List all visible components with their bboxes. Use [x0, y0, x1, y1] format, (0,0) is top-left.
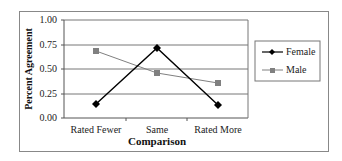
series-female [92, 44, 222, 109]
x-tick-label: Same [146, 124, 169, 135]
x-tick-label: Rated More [194, 124, 242, 135]
line-chart: 1.00 0.75 0.50 0.25 0.00 Percent Agreeme… [0, 0, 342, 161]
y-axis-label: Percent Agreement [23, 28, 34, 110]
y-tick-label: 0.75 [40, 39, 58, 50]
y-tick-label: 1.00 [40, 14, 58, 25]
y-tick-label: 0.50 [40, 63, 58, 74]
legend-label-female: Female [286, 46, 316, 57]
legend-label-male: Male [286, 64, 307, 75]
x-tick-label: Rated Fewer [71, 124, 122, 135]
x-axis-label: Comparison [128, 135, 186, 147]
legend: Female Male [255, 41, 320, 81]
y-tick-label: 0.25 [40, 88, 58, 99]
y-tick-label: 0.00 [40, 112, 58, 123]
series-male [93, 48, 221, 86]
